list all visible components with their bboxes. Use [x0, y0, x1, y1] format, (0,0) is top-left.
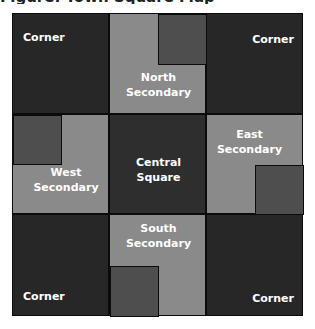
square-grid: Corner North Secondary Corner West Secon…: [12, 13, 303, 316]
east-secondary: East Secondary: [206, 114, 303, 214]
north-label-line2: Secondary: [110, 85, 207, 100]
corner-sw-label: Corner: [23, 289, 65, 304]
north-label: North Secondary: [110, 70, 207, 100]
south-secondary: South Secondary: [109, 214, 206, 316]
west-label: West Secondary: [21, 165, 111, 195]
north-label-line1: North: [110, 70, 207, 85]
corner-se: Corner: [206, 214, 303, 316]
central-label-line1: Central: [110, 155, 207, 170]
south-label: South Secondary: [110, 221, 207, 251]
central-square: Central Square: [109, 114, 206, 214]
corner-ne: Corner: [206, 13, 303, 114]
corner-nw-label: Corner: [23, 30, 65, 45]
west-label-line1: West: [21, 165, 111, 180]
corner-se-label: Corner: [252, 291, 294, 306]
east-inset: [255, 165, 304, 215]
east-label-line2: Secondary: [207, 142, 292, 157]
west-label-line2: Secondary: [21, 180, 111, 195]
central-label-line2: Square: [110, 170, 207, 185]
figure-title-clipped: Figure: Town Square Map: [0, 0, 315, 4]
north-inset: [158, 14, 207, 65]
west-inset: [13, 115, 62, 165]
corner-nw: Corner: [12, 13, 109, 114]
central-label: Central Square: [110, 155, 207, 185]
south-label-line1: South: [110, 221, 207, 236]
corner-ne-label: Corner: [252, 32, 294, 47]
east-label: East Secondary: [207, 127, 292, 157]
west-secondary: West Secondary: [12, 114, 109, 214]
north-secondary: North Secondary: [109, 13, 206, 114]
corner-sw: Corner: [12, 214, 109, 316]
south-inset: [110, 266, 159, 317]
east-label-line1: East: [207, 127, 292, 142]
south-label-line2: Secondary: [110, 236, 207, 251]
